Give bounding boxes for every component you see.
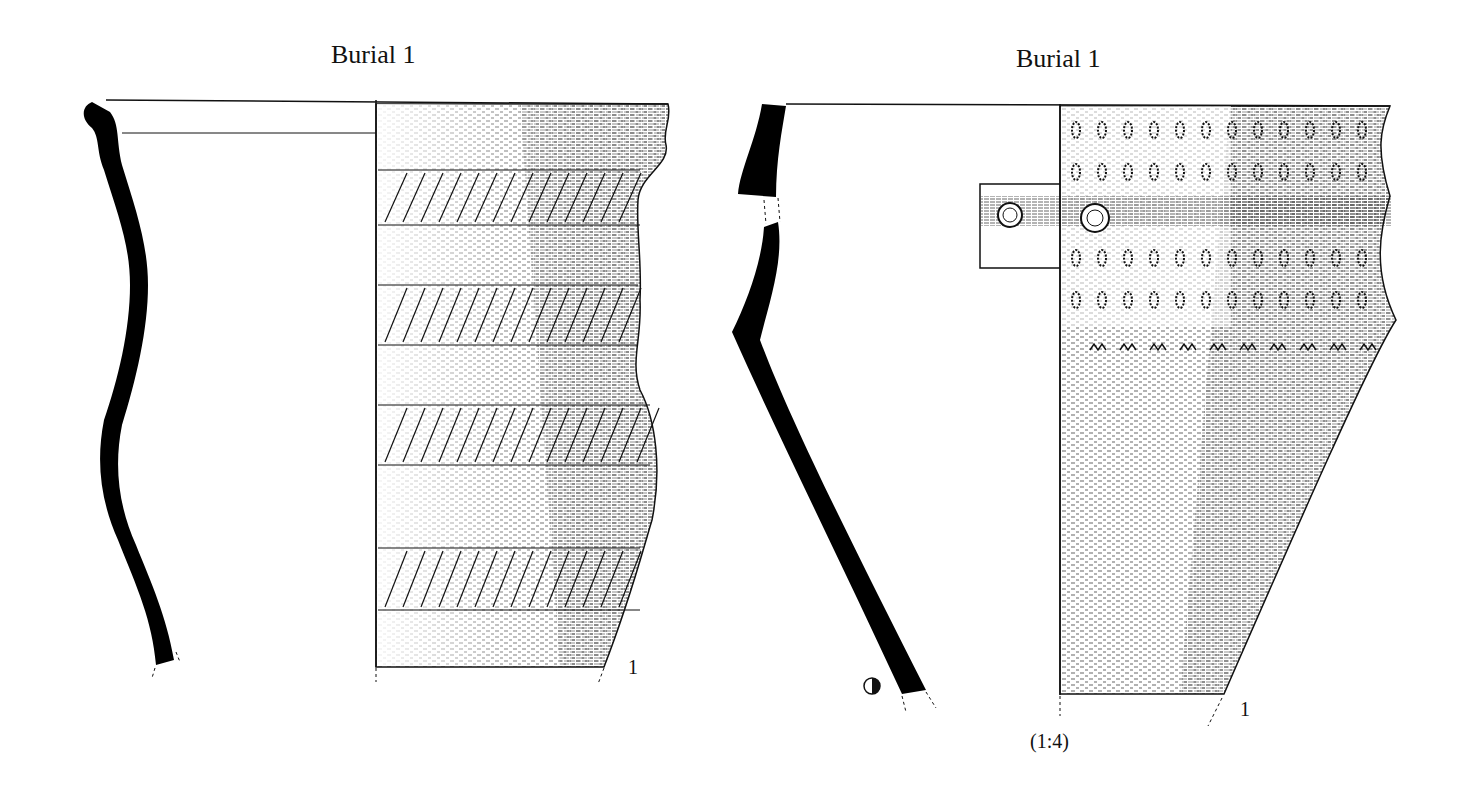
vessel-2-profile-lower [732, 222, 926, 694]
drawing-canvas [0, 0, 1478, 811]
section-symbol-icon [864, 678, 880, 694]
handle-band [981, 196, 1391, 226]
vessel-2-profile-upper [738, 104, 786, 197]
vessel-1 [84, 100, 669, 684]
vessel-2 [732, 104, 1396, 726]
vessel-1-profile-section [84, 102, 174, 665]
